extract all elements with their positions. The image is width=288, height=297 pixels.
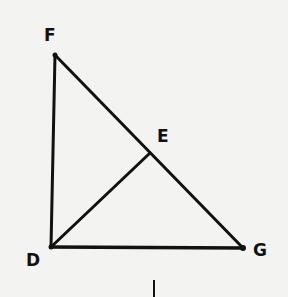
segment-fg <box>55 55 243 248</box>
triangle-diagram: F D G E <box>0 0 288 297</box>
segment-de <box>51 153 150 247</box>
segment-fd <box>51 55 55 247</box>
label-g: G <box>253 240 267 260</box>
label-e: E <box>157 126 169 146</box>
segment-dg <box>51 247 243 248</box>
vertex-d <box>49 245 54 250</box>
label-d: D <box>26 250 40 270</box>
vertex-g <box>240 245 246 251</box>
label-f: F <box>44 25 56 45</box>
vertex-f <box>53 53 58 58</box>
